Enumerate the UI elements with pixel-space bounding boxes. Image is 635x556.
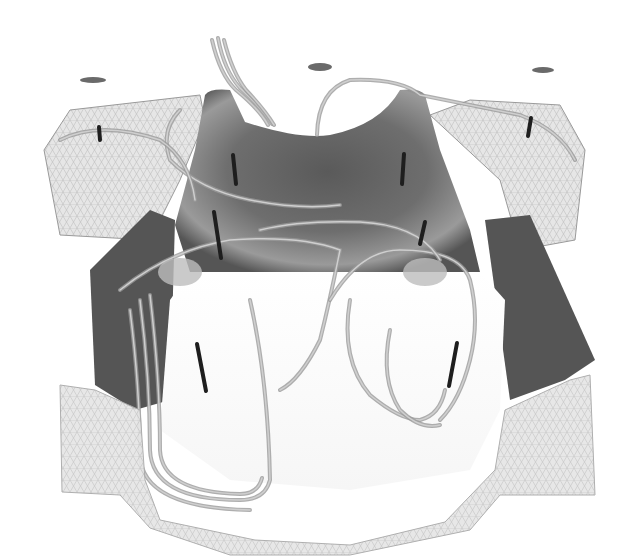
inlet-disc: [80, 77, 106, 83]
inlet-disc: [308, 63, 332, 71]
probe-rod: [402, 154, 404, 184]
inlet-disc: [403, 258, 447, 286]
simulation-render: [0, 0, 635, 556]
inlet-disc: [158, 258, 202, 286]
render-canvas: [0, 0, 635, 556]
inlet-disc: [532, 67, 554, 73]
left-side-panel: [90, 210, 175, 410]
inner-floor: [160, 272, 505, 490]
probe-rod: [99, 127, 100, 140]
